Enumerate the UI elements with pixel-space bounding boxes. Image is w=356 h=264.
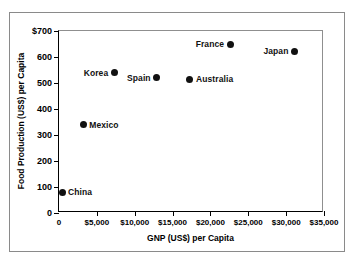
x-tick-mark: [324, 211, 325, 216]
x-tick-label: $30,000: [272, 218, 301, 227]
data-point-japan[interactable]: [291, 48, 298, 55]
data-point-korea[interactable]: [111, 69, 118, 76]
y-tick-label: $700: [32, 26, 52, 36]
y-tick-label: 100: [37, 182, 52, 192]
x-tick-mark: [248, 211, 249, 216]
point-label-australia: Australia: [196, 74, 233, 84]
data-point-china[interactable]: [59, 189, 66, 196]
x-tick-label: $25,000: [234, 218, 263, 227]
x-tick-label: 0: [57, 218, 61, 227]
chart-figure: Food Production (US$) per Capita 0100200…: [0, 0, 356, 264]
point-label-china: China: [68, 187, 92, 197]
point-label-spain: Spain: [127, 73, 151, 83]
x-tick-mark: [286, 211, 287, 216]
y-axis-title-text: Food Production (US$) per Capita: [16, 53, 26, 189]
y-tick-label: 500: [37, 78, 52, 88]
x-tick-label: $35,000: [310, 218, 339, 227]
y-tick-label: 0: [47, 208, 52, 218]
x-tick-mark: [173, 211, 174, 216]
point-label-mexico: Mexico: [89, 120, 118, 130]
plot-area: 0100200300400500600$700 0$5,000$10,000$1…: [58, 30, 323, 212]
x-tick-mark: [97, 211, 98, 216]
point-label-japan: Japan: [263, 46, 288, 56]
x-tick-label: $5,000: [85, 218, 109, 227]
y-axis-title: Food Production (US$) per Capita: [14, 30, 28, 212]
data-point-mexico[interactable]: [80, 121, 87, 128]
x-axis-title: GNP (US$) per Capita: [58, 233, 323, 243]
y-tick-label: 300: [37, 130, 52, 140]
x-tick-mark: [210, 211, 211, 216]
y-tick-mark: [54, 213, 59, 214]
x-tick-label: $15,000: [158, 218, 187, 227]
x-tick-mark: [135, 211, 136, 216]
data-point-spain[interactable]: [153, 74, 160, 81]
plot-inner: 0100200300400500600$700 0$5,000$10,000$1…: [59, 31, 322, 211]
point-label-france: France: [196, 39, 224, 49]
point-label-korea: Korea: [84, 68, 109, 78]
y-tick-label: 600: [37, 52, 52, 62]
x-tick-label: $20,000: [196, 218, 225, 227]
scatter-points: ChinaMexicoKoreaSpainAustraliaFranceJapa…: [59, 31, 322, 211]
y-tick-label: 200: [37, 156, 52, 166]
y-tick-label: 400: [37, 104, 52, 114]
data-point-australia[interactable]: [186, 76, 193, 83]
data-point-france[interactable]: [227, 41, 234, 48]
x-tick-label: $10,000: [120, 218, 149, 227]
